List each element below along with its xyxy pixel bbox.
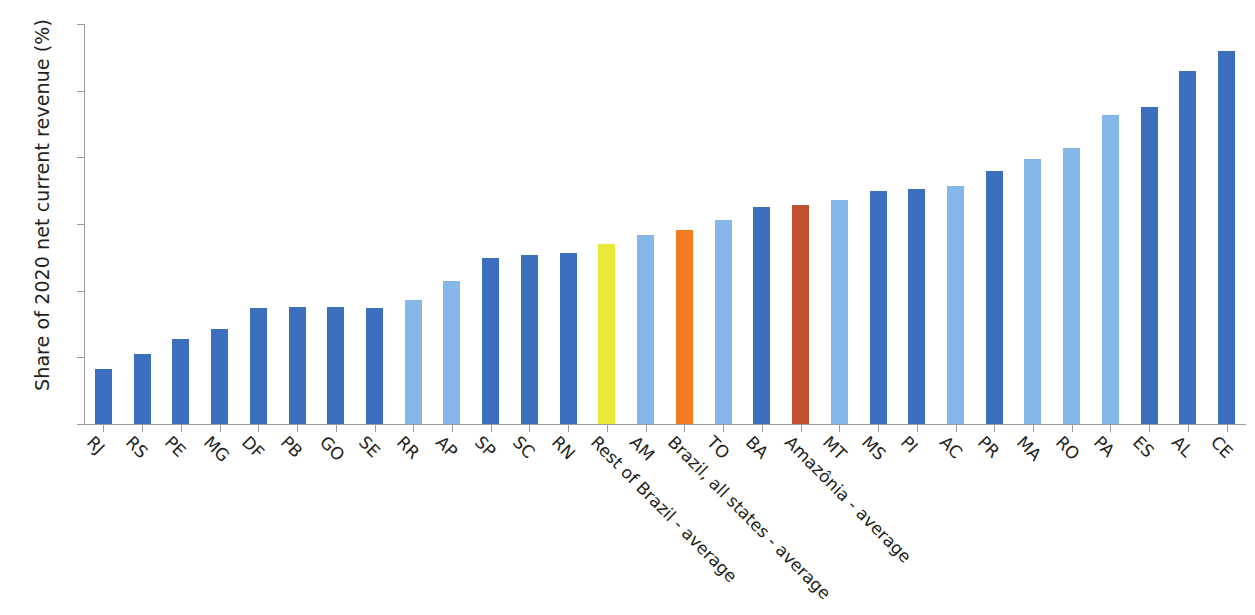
bar[interactable] (521, 255, 538, 424)
bar[interactable] (1102, 115, 1119, 424)
x-axis-label-text: CE (1206, 432, 1236, 462)
bar[interactable] (443, 281, 460, 424)
bar[interactable] (792, 205, 809, 424)
x-axis-tick (646, 425, 647, 432)
x-axis-label: RS (122, 432, 152, 462)
x-axis-tick (723, 425, 724, 432)
y-axis-tick (77, 224, 84, 225)
bar[interactable] (211, 329, 228, 424)
x-axis-tick (607, 425, 608, 432)
x-axis-tick (336, 425, 337, 432)
bar[interactable] (289, 307, 306, 424)
x-axis-tick (1188, 425, 1189, 432)
x-axis-label-text: GO (316, 432, 349, 465)
x-axis-label-text: DF (238, 432, 268, 462)
x-axis-label: RJ (83, 432, 109, 458)
x-axis-tick (491, 425, 492, 432)
bar[interactable] (870, 191, 887, 424)
bar[interactable] (1218, 51, 1235, 424)
y-axis-tick (77, 91, 84, 92)
bar[interactable] (366, 308, 383, 424)
x-axis-label-text: AP (432, 432, 462, 462)
x-axis-label-text: SP (471, 432, 500, 461)
bar[interactable] (1063, 148, 1080, 424)
x-axis-tick (994, 425, 995, 432)
bar[interactable] (1024, 159, 1041, 424)
x-axis-tick (142, 425, 143, 432)
x-axis-tick (568, 425, 569, 432)
x-axis-label: PB (277, 432, 307, 462)
bar-chart: Share of 2020 net current revenue (%) 02… (0, 0, 1255, 615)
bar[interactable] (947, 186, 964, 424)
x-axis-label-text: BA (742, 432, 773, 463)
x-axis-label: MS (858, 432, 890, 464)
bar[interactable] (715, 220, 732, 424)
x-axis-label: DF (238, 432, 268, 462)
x-axis-label-text: SE (354, 432, 383, 461)
bar[interactable] (908, 189, 925, 424)
bar[interactable] (405, 300, 422, 424)
x-axis-label: TO (703, 432, 734, 463)
x-axis-label: PE (161, 432, 190, 461)
bar[interactable] (172, 339, 189, 424)
x-axis-tick (1110, 425, 1111, 432)
x-axis-label-text: RO (1052, 432, 1084, 464)
x-axis-tick (762, 425, 763, 432)
y-axis-tick (77, 424, 84, 425)
x-axis-label-text: AC (935, 432, 966, 463)
x-axis-tick (801, 425, 802, 432)
x-axis-label: ES (1129, 432, 1158, 461)
plot-area: 024681012 (84, 24, 1246, 424)
y-axis-tick (77, 291, 84, 292)
x-axis-tick (684, 425, 685, 432)
x-axis-labels: RJRSPEMGDFPBGOSERRAPSPSCRNRest of Brazil… (84, 432, 1246, 612)
bar[interactable] (598, 244, 615, 424)
x-axis-tick (452, 425, 453, 432)
x-axis-label-text: RR (393, 432, 424, 463)
x-axis-label-text: MA (1013, 432, 1046, 465)
x-axis-label: BA (742, 432, 773, 463)
x-axis-label-text: ES (1129, 432, 1158, 461)
x-axis-label: RN (548, 432, 579, 463)
x-axis-label: MA (1013, 432, 1046, 465)
y-axis-tick (77, 24, 84, 25)
x-axis-label: MG (199, 432, 233, 466)
bar[interactable] (753, 207, 770, 424)
bar[interactable] (1179, 71, 1196, 424)
y-axis-tick (77, 157, 84, 158)
bar[interactable] (676, 230, 693, 424)
x-axis-label-text: PE (161, 432, 190, 461)
x-axis-label: AM (625, 432, 658, 465)
x-axis-tick (1033, 425, 1034, 432)
bar[interactable] (250, 308, 267, 424)
x-axis-label: AC (935, 432, 966, 463)
x-axis-label: SC (509, 432, 539, 462)
x-axis-label: AL (1168, 432, 1197, 461)
x-axis-tick (878, 425, 879, 432)
bar[interactable] (482, 258, 499, 424)
x-axis-label: RR (393, 432, 424, 463)
x-axis-label-text: MS (858, 432, 890, 464)
x-axis-label: GO (316, 432, 349, 465)
bar[interactable] (134, 354, 151, 424)
x-axis-label: MT (819, 432, 851, 464)
x-axis-tick (375, 425, 376, 432)
x-axis-label-text: RS (122, 432, 152, 462)
bar[interactable] (986, 171, 1003, 424)
x-axis-tick (839, 425, 840, 432)
bar[interactable] (560, 253, 577, 424)
bar[interactable] (831, 200, 848, 424)
bar[interactable] (1141, 107, 1158, 424)
x-axis-tick (297, 425, 298, 432)
x-axis-tick (1149, 425, 1150, 432)
x-axis-label-text: MG (199, 432, 233, 466)
bar[interactable] (327, 307, 344, 424)
x-axis-label-text: PB (277, 432, 307, 462)
bar[interactable] (637, 235, 654, 424)
x-axis-tick (103, 425, 104, 432)
x-axis-tick (956, 425, 957, 432)
x-axis-tick (181, 425, 182, 432)
bar[interactable] (95, 369, 112, 424)
x-axis-tick (1227, 425, 1228, 432)
x-axis-label: SE (354, 432, 383, 461)
